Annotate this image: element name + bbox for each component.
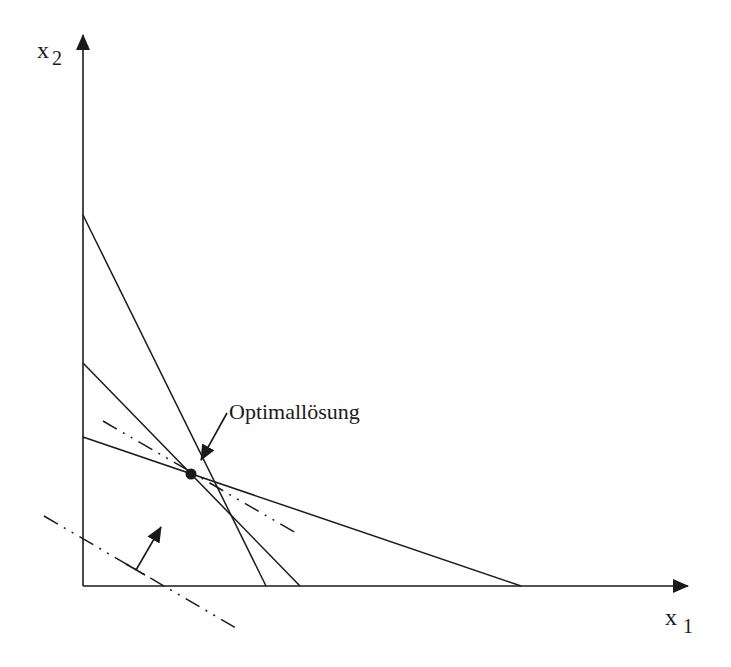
lp-graphical-solution-diagram: x2 x1 Optimallösung xyxy=(0,0,731,667)
improvement-direction-base-tick xyxy=(126,564,145,575)
constraint-line-shallow xyxy=(83,437,521,586)
optimum-label: Optimallösung xyxy=(229,399,360,424)
optimum-point xyxy=(186,469,197,480)
x1-axis-label: x1 xyxy=(665,604,693,637)
improvement-direction-arrow xyxy=(136,527,161,570)
x2-axis-label: x2 xyxy=(37,37,62,69)
optimum-annotation-arrow xyxy=(201,413,227,460)
